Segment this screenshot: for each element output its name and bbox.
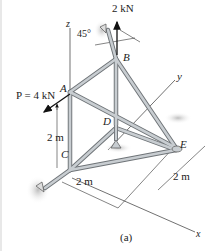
joint-A-label: A (60, 82, 67, 94)
x-axis-label: x (196, 228, 200, 239)
axes (70, 28, 195, 232)
figure-caption: (a) (120, 231, 132, 243)
joint-D-label: D (103, 115, 111, 127)
dim-y-label: 2 m (173, 170, 190, 182)
dim-x-label: 2 m (76, 175, 93, 187)
dim-vertical-label: 2 m (47, 131, 64, 143)
joint-C-label: C (61, 148, 68, 160)
y-axis-label: y (177, 70, 182, 82)
angle-label: 45° (77, 28, 91, 39)
load-P-label: P = 4 kN (16, 89, 55, 101)
joint-E-label: E (180, 138, 187, 150)
load-2kN-label: 2 kN (112, 2, 134, 14)
z-axis-label: z (66, 18, 70, 29)
truss-members (45, 30, 176, 188)
joint-B-label: B (123, 51, 130, 63)
